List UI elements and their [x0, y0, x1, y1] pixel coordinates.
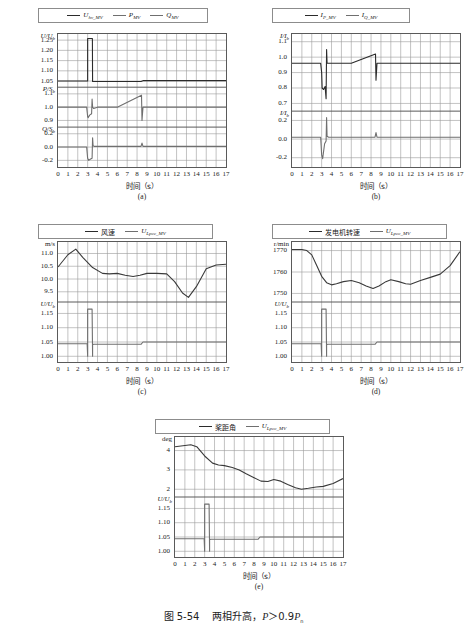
y-axis-label: m/s [5, 240, 55, 248]
legend-line-icon [246, 426, 259, 427]
plot-grid [58, 34, 226, 167]
y-axis-tick: 1.1 [239, 37, 287, 45]
legend-line-icon [199, 426, 212, 427]
legend-label: ULpcc_MV [141, 227, 166, 236]
legend-label: IP_MV [321, 11, 336, 20]
y-axis-tick: 0.0 [239, 135, 287, 143]
x-axis-tick: 17 [218, 170, 234, 178]
legend-b: IP_MVIQ_MV [272, 8, 410, 23]
y-axis-tick: -0.2 [5, 156, 53, 164]
plot-grid [292, 242, 460, 362]
y-axis-tick: 0.8 [239, 83, 287, 91]
plot-area-c [57, 241, 227, 363]
y-axis-tick: 1.00 [5, 352, 53, 360]
plot-area-e [174, 436, 344, 558]
legend-line-icon [85, 231, 98, 232]
y-axis-tick: 1.15 [122, 504, 170, 512]
y-axis-tick: 1.10 [5, 66, 53, 74]
y-axis-tick: 1.1 [5, 89, 53, 97]
legend-item: Uhv_MV [67, 11, 103, 20]
y-axis-tick: 1.05 [239, 338, 287, 346]
plot-grid [175, 437, 343, 557]
plot-area-b [291, 33, 461, 168]
panel-tag: (d) [291, 387, 461, 396]
legend-line-icon [346, 15, 359, 16]
legend-label: IQ_MV [362, 11, 378, 20]
y-axis-tick: 0.9 [5, 116, 53, 124]
y-axis-tick: 1.0 [5, 103, 53, 111]
legend-line-icon [309, 231, 322, 232]
series-line [58, 39, 226, 82]
caption-value: 0.9 [278, 611, 294, 622]
legend-item: ULpcc_MV [370, 227, 411, 236]
series-line [175, 445, 343, 490]
legend-line-icon [305, 15, 318, 16]
x-axis-tick: 17 [218, 365, 234, 373]
y-axis-label: deg [122, 435, 172, 443]
y-axis-tick: 4 [122, 446, 170, 454]
x-axis-title: 时间（s） [291, 180, 461, 191]
y-axis-tick: 1.05 [122, 533, 170, 541]
x-axis-tick: 17 [452, 170, 467, 178]
legend-item: QMV [150, 11, 178, 20]
caption-gt: ＞ [268, 611, 278, 622]
legend-line-icon [113, 15, 126, 16]
legend-label: 发电机转速 [325, 227, 360, 237]
y-axis-tick: 1.15 [5, 309, 53, 317]
series-line [292, 309, 460, 356]
caption-pn-sub: n [300, 618, 303, 624]
legend-item: IQ_MV [346, 11, 378, 20]
series-line [292, 49, 460, 98]
plot-area-a [57, 33, 227, 168]
legend-label: ULpcc_MV [386, 227, 411, 236]
legend-label: 风速 [101, 227, 115, 237]
x-axis-title: 时间（s） [174, 570, 344, 581]
legend-line-icon [150, 15, 163, 16]
legend-item: 风速 [85, 227, 115, 237]
legend-label: QMV [166, 11, 178, 20]
series-line [58, 138, 226, 161]
legend-item: 桨距角 [199, 422, 236, 432]
panel-tag: (b) [291, 192, 461, 201]
legend-e: 桨距角ULpcc_MV [155, 419, 330, 434]
y-axis-tick: 1.10 [5, 323, 53, 331]
legend-item: ULpcc_MV [246, 422, 287, 431]
y-axis-tick: 1750 [239, 289, 287, 297]
panel-tag: (e) [174, 582, 344, 591]
x-axis-title: 时间（s） [57, 375, 227, 386]
legend-d: 发电机转速ULpcc_MV [272, 224, 447, 239]
series-line [292, 250, 460, 289]
y-axis-tick: 1.10 [122, 518, 170, 526]
plot-grid [58, 242, 226, 362]
legend-item: IP_MV [305, 11, 336, 20]
x-axis-tick: 17 [335, 560, 351, 568]
series-line [58, 95, 226, 120]
x-axis-tick: 17 [452, 365, 467, 373]
legend-item: PMV [113, 11, 141, 20]
legend-a: Uhv_MVPMVQMV [38, 8, 208, 23]
y-axis-tick: 1.00 [239, 352, 287, 360]
y-axis-tick: 1.15 [239, 309, 287, 317]
y-axis-tick: 1.0 [239, 53, 287, 61]
legend-item: ULpcc_MV [125, 227, 166, 236]
y-axis-tick: 3 [122, 465, 170, 473]
legend-label: PMV [129, 11, 141, 20]
caption-number: 图 5-54 [164, 611, 200, 622]
legend-line-icon [370, 231, 383, 232]
legend-label: Uhv_MV [83, 11, 103, 20]
y-axis-tick: 0.2 [5, 129, 53, 137]
y-axis-tick: 0.9 [239, 68, 287, 76]
plot-area-d [291, 241, 461, 363]
legend-line-icon [67, 15, 80, 16]
y-axis-tick: 1760 [239, 268, 287, 276]
legend-line-icon [125, 231, 138, 232]
series-line [58, 249, 226, 297]
y-axis-tick: 1.00 [122, 547, 170, 555]
y-axis-tick: 1.05 [5, 338, 53, 346]
y-axis-tick: 1770 [239, 246, 287, 254]
legend-label: ULpcc_MV [262, 422, 287, 431]
y-axis-tick: 10.5 [5, 262, 53, 270]
y-axis-tick: -0.2 [239, 153, 287, 161]
figure-caption: 图 5-54 两相升高，P＞0.9Pn [0, 608, 467, 624]
x-axis-title: 时间（s） [57, 180, 227, 191]
